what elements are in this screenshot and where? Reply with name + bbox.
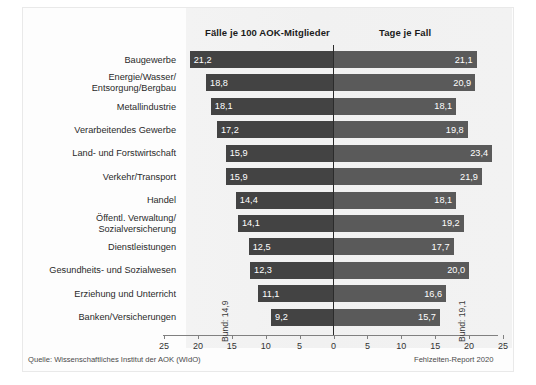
category-label-line: Verarbeitendes Gewerbe	[24, 124, 176, 135]
bar-value-left: 12,5	[253, 242, 271, 252]
axis-tick-label: 10	[261, 341, 271, 351]
category-label: Banken/Versicherungen	[24, 312, 176, 323]
reference-label-left: Bund: 14,9	[220, 300, 230, 342]
axis-tick-label: 25	[159, 341, 169, 351]
bar-right: 21,1	[334, 51, 477, 68]
category-label: Erziehung und Unterricht	[24, 288, 176, 299]
bar-rows: Baugewerbe21,221,1Energie/Wasser/Entsorg…	[0, 0, 536, 385]
bar-left: 18,8	[206, 74, 333, 91]
category-label: Handel	[24, 195, 176, 206]
bar-right: 20,9	[334, 74, 476, 91]
category-label-line: Erziehung und Unterricht	[24, 288, 176, 299]
chart-row: Verarbeitendes Gewerbe17,219,8	[0, 118, 536, 141]
bar-value-right: 21,9	[460, 172, 478, 182]
axis-tick	[367, 335, 368, 339]
bar-right: 19,8	[334, 121, 468, 138]
report-note: Fehlzeiten-Report 2020	[414, 355, 493, 364]
bar-value-right: 19,2	[442, 218, 460, 228]
bar-right: 15,7	[334, 309, 440, 326]
bar-left: 11,1	[258, 285, 333, 302]
bar-value-right: 17,7	[432, 242, 450, 252]
category-label: Öffentl. Verwaltung/Sozialversicherung	[24, 213, 176, 235]
axis-tick	[469, 335, 470, 339]
axis-tick-label: 5	[297, 341, 302, 351]
bar-value-left: 12,3	[254, 265, 272, 275]
chart-row: Land- und Forstwirtschaft15,923,4	[0, 142, 536, 165]
bar-right: 20,0	[334, 262, 470, 279]
bar-value-right: 16,6	[424, 289, 442, 299]
category-label: Gesundheits- und Sozialwesen	[24, 265, 176, 276]
bar-value-left: 15,9	[230, 172, 248, 182]
bar-value-left: 18,1	[215, 101, 233, 111]
axis-tick-label: 25	[498, 341, 508, 351]
bar-left: 17,2	[217, 121, 334, 138]
chart-row: Öffentl. Verwaltung/Sozialversicherung14…	[0, 212, 536, 235]
bar-value-right: 19,8	[446, 125, 464, 135]
reference-label-right: Bund: 19,1	[457, 300, 467, 342]
category-label-line: Energie/Wasser/	[24, 72, 176, 83]
bar-value-right: 18,1	[434, 195, 452, 205]
bar-left: 21,2	[190, 51, 334, 68]
category-label: Verkehr/Transport	[24, 171, 176, 182]
axis-tick-label: 10	[396, 341, 406, 351]
category-label-line: Metallindustrie	[24, 101, 176, 112]
category-label: Dienstleistungen	[24, 242, 176, 253]
chart-row: Metallindustrie18,118,1	[0, 95, 536, 118]
category-label-line: Entsorgung/Bergbau	[24, 83, 176, 94]
category-label: Land- und Forstwirtschaft	[24, 148, 176, 159]
axis-tick	[300, 335, 301, 339]
bar-value-right: 20,9	[453, 78, 471, 88]
chart-row: Baugewerbe21,221,1	[0, 48, 536, 71]
axis-tick	[266, 335, 267, 339]
bar-left: 14,1	[238, 215, 334, 232]
category-label: Verarbeitendes Gewerbe	[24, 124, 176, 135]
bar-left: 15,9	[226, 145, 334, 162]
axis-tick	[164, 335, 165, 339]
bar-left: 12,5	[249, 238, 334, 255]
bar-value-right: 18,1	[434, 101, 452, 111]
axis-tick	[334, 335, 335, 339]
chart-row: Gesundheits- und Sozialwesen12,320,0	[0, 259, 536, 282]
category-label-line: Gesundheits- und Sozialwesen	[24, 265, 176, 276]
category-label-line: Land- und Forstwirtschaft	[24, 148, 176, 159]
bar-right: 23,4	[334, 145, 493, 162]
bar-value-left: 21,2	[194, 55, 212, 65]
chart-row: Banken/Versicherungen9,215,7	[0, 306, 536, 329]
category-label-line: Verkehr/Transport	[24, 171, 176, 182]
bar-right: 18,1	[334, 98, 457, 115]
category-label-line: Dienstleistungen	[24, 242, 176, 253]
bar-value-right: 20,0	[447, 265, 465, 275]
category-label: Baugewerbe	[24, 54, 176, 65]
category-label-line: Handel	[24, 195, 176, 206]
source-note: Quelle: Wissenschaftliches Institut der …	[28, 355, 201, 364]
bar-value-left: 15,9	[230, 148, 248, 158]
bar-value-left: 11,1	[262, 289, 279, 299]
bar-right: 17,7	[334, 238, 454, 255]
bar-value-right: 23,4	[470, 148, 488, 158]
bar-right: 16,6	[334, 285, 447, 302]
category-label-line: Banken/Versicherungen	[24, 312, 176, 323]
bar-left: 18,1	[211, 98, 334, 115]
zero-axis-line	[333, 45, 334, 335]
bar-value-right: 21,1	[455, 55, 473, 65]
bar-value-left: 9,2	[275, 312, 288, 322]
category-label-line: Baugewerbe	[24, 54, 176, 65]
axis-tick	[435, 335, 436, 339]
bar-right: 18,1	[334, 192, 457, 209]
bar-value-left: 14,1	[242, 218, 260, 228]
chart-row: Energie/Wasser/Entsorgung/Bergbau18,820,…	[0, 71, 536, 94]
axis-tick-label: 15	[227, 341, 237, 351]
axis-tick-label: 0	[331, 341, 336, 351]
axis-tick-label: 20	[464, 341, 474, 351]
bar-left: 9,2	[271, 309, 333, 326]
category-label: Metallindustrie	[24, 101, 176, 112]
bar-right: 19,2	[334, 215, 464, 232]
bar-right: 21,9	[334, 168, 482, 185]
bar-left: 15,9	[226, 168, 334, 185]
chart-row: Dienstleistungen12,517,7	[0, 235, 536, 258]
axis-tick-label: 5	[365, 341, 370, 351]
axis-tick	[198, 335, 199, 339]
bar-value-left: 18,8	[210, 78, 228, 88]
category-label: Energie/Wasser/Entsorgung/Bergbau	[24, 72, 176, 94]
category-label-line: Sozialversicherung	[24, 224, 176, 235]
